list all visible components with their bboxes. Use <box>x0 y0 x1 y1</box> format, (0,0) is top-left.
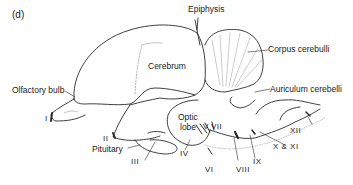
label-nerve-VII: VII <box>211 123 222 131</box>
label-nerve-I: I <box>45 115 48 123</box>
label-nerve-III: III <box>131 158 139 166</box>
label-cerebrum: Cerebrum <box>148 62 186 71</box>
label-epiphysis: Epiphysis <box>188 5 224 14</box>
label-optic-lobe-line1: Optic <box>178 113 198 122</box>
label-olfactory-bulb: Olfactory bulb <box>12 86 64 95</box>
corpus-cerebelli-outline <box>205 30 263 92</box>
olfactory-bulb-outline <box>51 99 85 121</box>
label-nerve-IV: IV <box>180 150 189 158</box>
label-auriculum-cerebelli: Auriculum cerebelli <box>270 85 342 94</box>
medulla-outline <box>210 109 320 138</box>
label-pituitary: Pituitary <box>92 145 123 154</box>
label-nerve-XII: XII <box>290 127 301 135</box>
label-nerve-VIII: VIII <box>236 166 250 174</box>
label-nerve-II: II <box>103 135 108 143</box>
label-nerve-IX: IX <box>253 158 262 166</box>
pituitary-outline <box>135 140 177 154</box>
label-corpus-cerebelli: Corpus cerebulli <box>268 45 329 54</box>
label-optic-lobe-line2: lobe <box>180 123 196 132</box>
label-nerve-VI: VI <box>205 166 214 174</box>
brain-diagram: (d) Epiphysis Corpus cerebulli Cerebrum … <box>0 0 353 185</box>
label-nerve-V: V <box>203 123 209 131</box>
label-nerve-X-XI: X & XI <box>273 143 299 151</box>
panel-label: (d) <box>12 10 24 20</box>
